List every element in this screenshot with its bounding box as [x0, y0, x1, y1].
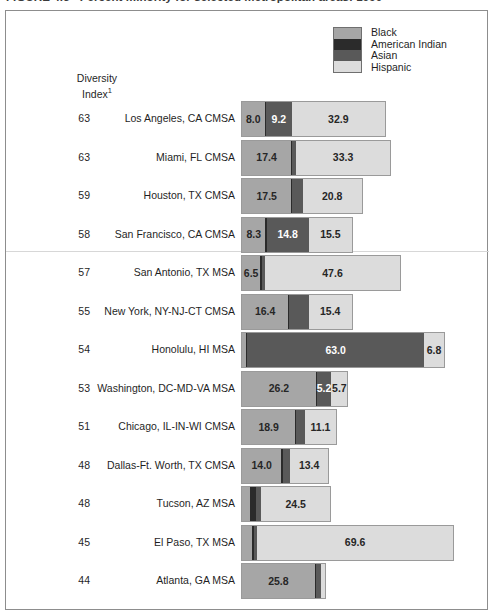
- legend-label-asian: Asian: [371, 50, 447, 62]
- bar-segment-hispanic: 32.9: [292, 102, 385, 136]
- bar-segment-asian: [292, 179, 302, 213]
- bar-segment-value: 63.0: [325, 345, 345, 356]
- bar-segment-asian: 9.2: [266, 102, 292, 136]
- chart-row: 45El Paso, TX MSA69.6: [6, 523, 489, 561]
- bar-segment-hispanic: 33.3: [296, 141, 390, 175]
- chart-row: 51Chicago, IL-IN-WI CMSA18.911.1: [6, 407, 489, 445]
- bar-segment-value: 6.5: [244, 268, 259, 279]
- diversity-index-header: Diversity Index1: [54, 73, 140, 100]
- bar-segment-value: 13.4: [299, 460, 319, 471]
- chart-row: 57San Antonio, TX MSA6.547.6: [6, 253, 489, 291]
- chart-row: 54Honolulu, HI MSA63.06.8: [6, 330, 489, 368]
- bar-segment-asian: 5.2: [317, 372, 332, 406]
- diversity-index-value: 58: [54, 228, 90, 240]
- diversity-index-value: 54: [54, 343, 90, 355]
- stacked-bar-chicago-il-in-wi-cmsa: 18.911.1: [241, 409, 337, 445]
- diversity-header-line1: Diversity: [77, 72, 117, 84]
- bar-segment-value: 14.8: [277, 229, 297, 240]
- bar-segment-value: 20.8: [322, 191, 342, 202]
- bar-segment-value: 17.4: [256, 152, 276, 163]
- chart-row: 55New York, NY-NJ-CT CMSA16.415.4: [6, 292, 489, 330]
- bar-segment-hispanic: 5.7: [331, 372, 347, 406]
- legend-swatch-stack: [333, 27, 362, 73]
- diversity-index-value: 57: [54, 266, 90, 278]
- chart-frame: BlackAmerican IndianAsianHispanic Divers…: [5, 10, 488, 610]
- diversity-index-value: 51: [54, 420, 90, 432]
- bar-segment-hispanic: 11.1: [305, 410, 336, 444]
- diversity-index-value: 53: [54, 382, 90, 394]
- bar-segment-black: 17.5: [242, 179, 291, 213]
- metro-area-label-washington-dc-md-va-msa: Washington, DC-MD-VA MSA: [94, 382, 235, 394]
- bar-segment-asian: [296, 410, 305, 444]
- metro-area-label-tucson-az-msa: Tucson, AZ MSA: [94, 497, 235, 509]
- legend-label-hispanic: Hispanic: [371, 62, 447, 74]
- stacked-bar-new-york-ny-nj-ct-cmsa: 16.415.4: [241, 294, 353, 330]
- bar-segment-value: 8.0: [246, 114, 261, 125]
- stacked-bar-atlanta-ga-msa: 25.8: [241, 563, 326, 599]
- bar-segment-hispanic: [321, 564, 325, 598]
- diversity-index-value: 63: [54, 112, 90, 124]
- diversity-index-value: 45: [54, 536, 90, 548]
- stacked-bar-los-angeles-ca-cmsa: 8.09.232.9: [241, 101, 386, 137]
- stacked-bar-miami-fl-cmsa: 17.433.3: [241, 140, 391, 176]
- bar-segment-value: 6.8: [427, 345, 442, 356]
- legend: BlackAmerican IndianAsianHispanic: [333, 27, 447, 73]
- diversity-index-value: 48: [54, 497, 90, 509]
- stacked-bar-san-antonio-tx-msa: 6.547.6: [241, 255, 401, 291]
- stacked-bar-el-paso-tx-msa: 69.6: [241, 525, 454, 561]
- bar-segment-hispanic: 6.8: [424, 333, 443, 367]
- metro-area-label-el-paso-tx-msa: El Paso, TX MSA: [94, 536, 235, 548]
- bar-segment-value: 33.3: [333, 152, 353, 163]
- bar-segment-value: 8.3: [246, 229, 261, 240]
- bar-segment-value: 15.4: [320, 306, 340, 317]
- metro-area-label-miami-fl-cmsa: Miami, FL CMSA: [94, 151, 235, 163]
- chart-row: 44Atlanta, GA MSA25.8: [6, 561, 489, 599]
- bar-segment-hispanic: 47.6: [265, 256, 399, 290]
- legend-label-black: Black: [371, 27, 447, 39]
- chart-row: 53Washington, DC-MD-VA MSA26.25.25.7: [6, 369, 489, 407]
- figure-title: Percent minority for selected metropolit…: [80, 0, 383, 3]
- bar-segment-value: 5.7: [332, 383, 347, 394]
- figure-number: FIGURE 4.5: [6, 0, 70, 3]
- bar-segment-value: 18.9: [258, 422, 278, 433]
- bar-segment-value: 14.0: [252, 460, 272, 471]
- bar-segment-value: 25.8: [268, 576, 288, 587]
- bar-segment-asian: [283, 449, 290, 483]
- diversity-header-line2: Index: [82, 87, 108, 99]
- bar-segment-black: 26.2: [242, 372, 316, 406]
- stacked-bar-dallas-ft-worth-tx-cmsa: 14.013.4: [241, 448, 329, 484]
- chart-row: 58San Francisco, CA CMSA8.314.815.5: [6, 215, 489, 253]
- bar-segment-value: 17.5: [256, 191, 276, 202]
- bar-segment-black: 6.5: [242, 256, 260, 290]
- bar-segment-black: 14.0: [242, 449, 281, 483]
- bar-segment-hispanic: 24.5: [261, 487, 330, 521]
- stacked-bar-tucson-az-msa: 24.5: [241, 486, 331, 522]
- diversity-index-value: 44: [54, 574, 90, 586]
- metro-area-label-houston-tx-cmsa: Houston, TX CMSA: [94, 189, 235, 201]
- figure-caption: FIGURE 4.5Percent minority for selected …: [6, 0, 382, 3]
- chart-row: 63Los Angeles, CA CMSA8.09.232.9: [6, 99, 489, 137]
- metro-area-label-atlanta-ga-msa: Atlanta, GA MSA: [94, 574, 235, 586]
- chart-row: 48Dallas-Ft. Worth, TX CMSA14.013.4: [6, 446, 489, 484]
- bar-segment-value: 32.9: [328, 114, 348, 125]
- legend-swatch-black: [334, 28, 361, 39]
- legend-swatch-american-indian: [334, 39, 361, 50]
- bar-segment-black: [242, 526, 252, 560]
- diversity-header-footnote-marker: 1: [108, 86, 112, 95]
- stacked-bar-honolulu-hi-msa: 63.06.8: [241, 332, 445, 368]
- metro-area-label-san-antonio-tx-msa: San Antonio, TX MSA: [94, 266, 235, 278]
- diversity-index-value: 55: [54, 305, 90, 317]
- metro-area-label-los-angeles-ca-cmsa: Los Angeles, CA CMSA: [94, 112, 235, 124]
- bar-segment-black: 8.0: [242, 102, 265, 136]
- bar-segment-value: 47.6: [322, 268, 342, 279]
- bar-segment-black: 16.4: [242, 295, 288, 329]
- bar-segment-black: [242, 487, 250, 521]
- bar-segment-hispanic: 69.6: [257, 526, 453, 560]
- chart-row: 48Tucson, AZ MSA24.5: [6, 484, 489, 522]
- diversity-index-value: 59: [54, 189, 90, 201]
- metro-area-label-chicago-il-in-wi-cmsa: Chicago, IL-IN-WI CMSA: [94, 420, 235, 432]
- bar-segment-value: 9.2: [272, 114, 287, 125]
- diversity-index-value: 63: [54, 151, 90, 163]
- stacked-bar-washington-dc-md-va-msa: 26.25.25.7: [241, 371, 348, 407]
- bar-segment-value: 26.2: [269, 383, 289, 394]
